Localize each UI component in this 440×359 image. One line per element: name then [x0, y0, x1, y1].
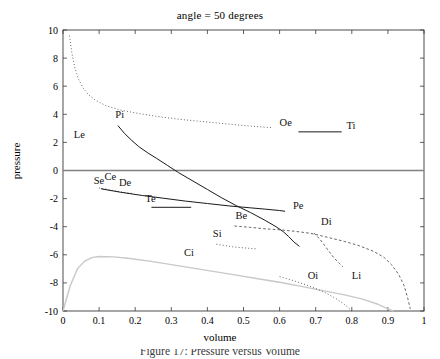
x-tick-label: 0.7 [309, 315, 322, 326]
curve-label-ci: Ci [184, 247, 194, 258]
curve-label-pi: Pi [115, 109, 124, 120]
curve-label-si: Si [213, 228, 222, 239]
curve-label-se: Se [94, 175, 105, 186]
curve-label-oe: Oe [280, 117, 293, 128]
figure-caption: Figure 17: Pressure versus Volume [0, 349, 440, 359]
curve-label-di: Di [321, 216, 332, 227]
y-tick-label: 6 [53, 81, 58, 92]
curve-pi [118, 126, 300, 247]
x-tick-label: 1 [422, 315, 427, 326]
x-tick-label: 0 [61, 315, 66, 326]
y-tick-label: 8 [53, 53, 58, 64]
y-tick-label: -8 [50, 277, 58, 288]
x-tick-label: 0.3 [165, 315, 178, 326]
figure-container: angle = 50 degrees pressure volume LeOeP… [0, 0, 440, 359]
figure-caption-text: Figure 17: Pressure versus Volume [140, 349, 300, 357]
curve-si [216, 244, 256, 249]
curve-ci [63, 256, 393, 311]
y-tick-label: 2 [53, 137, 58, 148]
y-tick-label: -4 [50, 221, 58, 232]
curve-label-le: Le [74, 129, 85, 140]
x-tick-label: 0.5 [237, 315, 250, 326]
curve-label-te: Te [145, 193, 156, 204]
curve-de [101, 189, 285, 211]
x-tick-label: 0.2 [129, 315, 142, 326]
y-tick-label: 10 [48, 25, 58, 36]
curve-label-li: Li [352, 270, 361, 281]
x-tick-label: 0.4 [201, 315, 214, 326]
curve-label-be: Be [236, 210, 248, 221]
curve-di [314, 233, 343, 267]
y-tick-label: 0 [53, 165, 58, 176]
curve-label-ti: Ti [346, 120, 355, 131]
curve-label-de: De [119, 177, 132, 188]
curve-label-pe: Pe [293, 200, 304, 211]
curve-be [234, 226, 410, 309]
x-tick-label: 0.9 [382, 315, 395, 326]
curve-le [70, 36, 273, 128]
y-tick-label: -6 [50, 249, 58, 260]
y-tick-label: -10 [45, 306, 58, 317]
curve-label-ce: Ce [105, 171, 117, 182]
plot-area: LeOePiTiSeCeDeTePeBeDiSiCiOiLi 00.10.20.… [0, 0, 440, 359]
curve-label-oi: Oi [308, 270, 319, 281]
y-tick-label: 4 [53, 109, 58, 120]
x-tick-label: 0.6 [273, 315, 286, 326]
x-tick-label: 0.1 [93, 315, 106, 326]
x-tick-label: 0.8 [346, 315, 359, 326]
y-tick-label: -2 [50, 193, 58, 204]
